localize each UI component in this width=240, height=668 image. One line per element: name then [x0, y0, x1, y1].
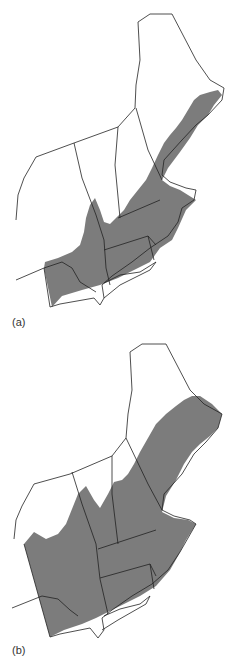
shaded-area-a [44, 90, 222, 307]
panel-label-a: (a) [12, 316, 25, 328]
map-b [0, 334, 240, 668]
panel-label-b: (b) [12, 644, 25, 656]
map-a [0, 0, 240, 334]
map-panel-a: (a) [0, 0, 240, 334]
map-panel-b: (b) [0, 334, 240, 668]
shaded-area-b [24, 396, 222, 637]
